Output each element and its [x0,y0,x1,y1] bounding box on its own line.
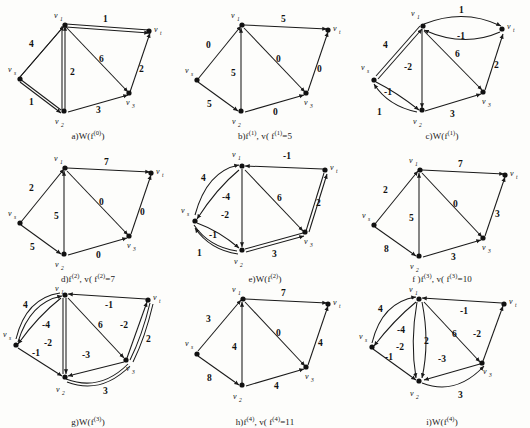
svg-text:s: s [191,71,193,77]
weight-v2-v1: 5 [54,211,59,221]
weight-v1-t: 7 [104,157,109,167]
svg-text:1: 1 [238,155,241,161]
weight-v1-s: -4 [397,325,405,335]
edge-v1-v3 [245,170,303,231]
vertex-label-v1: v1 [232,150,241,161]
weight-s-v1: 4 [23,300,28,310]
node-v2 [416,378,421,383]
vertex-label-vt: vt [333,24,341,35]
svg-text:v: v [153,293,157,302]
edge-v1-t [422,170,504,174]
vertex-label-vs: vs [361,63,369,74]
svg-text:2: 2 [416,394,419,400]
svg-text:v: v [507,22,511,31]
weight-v2-v3: 4 [274,381,279,391]
vertex-label-v1: v1 [54,154,63,165]
vertex-label-v3: v3 [482,243,491,254]
node-v1 [420,23,425,28]
node-v1 [62,22,67,27]
edge-v1-v3 [424,31,482,90]
panel-d: vs v1 vt v2 v3 2 7 5 0 5 0 0 d)f(2), v( … [0,143,176,285]
node-vt [148,170,153,175]
weight-s-v1: 2 [29,183,34,193]
svg-text:3: 3 [487,102,491,108]
weight-v1-v3: 6 [98,320,103,330]
weight-v2-v3: 3 [458,390,463,400]
weight-v3-v2: -3 [438,354,446,364]
weight-s-v1: 4 [201,173,206,183]
weight-v2-s: 1 [377,107,382,117]
edge-v1-v3 [422,173,482,237]
vertex-label-v1: v1 [54,11,63,22]
svg-text:v: v [56,385,60,394]
edge-s-v2 [373,349,416,380]
edge-v1-v2 [413,302,417,378]
node-v2 [61,251,66,256]
vertex-label-vs: vs [185,339,193,350]
svg-text:s: s [365,337,367,343]
vertex-label-v3: v3 [126,364,135,375]
weight-v1-t: 7 [281,288,286,298]
weight-v2-v3: 3 [96,105,101,115]
weight-v2-v3: 0 [273,107,278,117]
svg-text:v: v [185,66,189,75]
svg-text:v: v [231,11,235,20]
node-vt [502,172,507,177]
svg-text:v: v [359,332,363,341]
node-v1 [240,296,245,301]
edge-v1-t [67,168,150,172]
weight-s-v2: -1 [32,348,40,358]
svg-text:3: 3 [488,372,492,378]
weight-v2-v3: 3 [272,249,277,259]
svg-text:2: 2 [239,397,242,403]
svg-text:1: 1 [415,290,418,296]
weight-s-v2: 5 [207,99,212,109]
weight-v3-t: 2 [494,60,499,70]
weight-v1-v2b: 2 [424,336,429,346]
node-v3 [479,360,484,365]
weight-v2-s: 1 [197,248,202,258]
node-vt [501,301,506,306]
svg-text:v: v [126,364,130,373]
svg-text:v: v [304,237,308,246]
edge-v1-t [424,16,501,26]
edge-v1-t [244,25,327,29]
vertex-label-v3: v3 [305,372,314,383]
weight-v1-t: 1 [103,14,108,24]
weight-t-v3: 2 [146,334,151,344]
weight-v3-t: -2 [473,329,481,339]
svg-text:t: t [515,302,517,308]
svg-text:v: v [510,169,514,178]
svg-text:1: 1 [238,290,241,296]
vertex-label-vt: vt [156,167,164,178]
svg-text:1: 1 [60,159,63,165]
svg-text:v: v [181,206,185,215]
edge-v1-v3 [244,28,305,92]
node-vs [13,342,18,347]
weight-v1-v2: -2 [44,338,52,348]
weight-t-v1: -1 [460,306,468,316]
edge-v3-t [127,302,147,358]
panel-h-caption: h)f(4), v( f(4)=11 [177,415,353,427]
svg-text:v: v [232,117,236,126]
svg-text:v: v [55,260,59,269]
node-v2 [238,108,243,113]
svg-text:1: 1 [237,16,240,22]
weight-v3-t: 0 [317,64,322,74]
edge-v1-v3 [66,27,128,92]
vertex-label-vs: vs [3,330,11,341]
node-vt [146,28,151,33]
weight-v1-v2: -2 [221,210,229,220]
vertex-label-vt: vt [507,22,515,33]
edge-s-v1 [20,26,64,77]
node-v2 [62,374,67,379]
svg-text:s: s [367,68,369,74]
edge-s-v2 [375,227,416,256]
svg-text:s: s [191,344,193,350]
node-v2 [239,382,244,387]
svg-text:t: t [513,27,515,33]
node-v3 [480,235,485,240]
svg-text:v: v [409,286,413,294]
vertex-label-v2: v2 [413,117,422,128]
svg-text:v: v [54,154,58,163]
